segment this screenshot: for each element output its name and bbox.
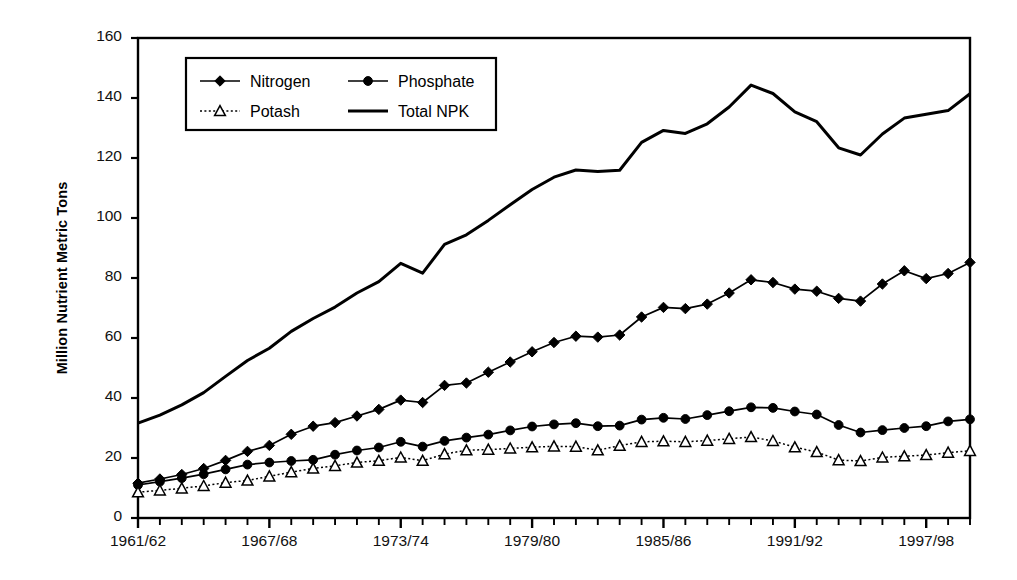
data-point-marker	[484, 430, 493, 439]
y-axis-tick-label: 20	[60, 447, 122, 465]
data-point-marker	[527, 347, 537, 357]
series-total-npk	[138, 85, 970, 423]
data-point-marker	[724, 288, 734, 298]
data-point-marker	[177, 474, 186, 483]
data-point-marker	[396, 437, 405, 446]
chart-page: Million Nutrient Metric Tons NitrogenPho…	[0, 0, 1017, 580]
data-point-marker	[220, 477, 231, 487]
data-point-marker	[790, 407, 799, 416]
data-point-marker	[681, 415, 690, 424]
x-axis-tick-label: 1997/98	[866, 532, 986, 550]
x-axis-tick-label: 1985/86	[603, 532, 723, 550]
legend-label: Potash	[250, 103, 300, 120]
y-axis-tick-label: 40	[60, 387, 122, 405]
data-point-marker	[943, 268, 953, 278]
data-point-marker	[790, 284, 800, 294]
data-point-marker	[287, 457, 296, 466]
legend-label: Total NPK	[398, 103, 469, 120]
data-point-marker	[221, 465, 230, 474]
data-point-marker	[921, 273, 931, 283]
data-point-marker	[725, 407, 734, 416]
data-point-marker	[506, 426, 515, 435]
data-point-marker	[395, 452, 406, 462]
data-point-marker	[768, 436, 779, 446]
data-point-marker	[900, 424, 909, 433]
x-axis-tick-label: 1979/80	[472, 532, 592, 550]
y-axis-tick-label: 120	[60, 147, 122, 165]
data-point-marker	[571, 331, 581, 341]
y-axis-tick-label: 80	[60, 267, 122, 285]
data-point-marker	[593, 422, 602, 431]
data-point-marker	[659, 413, 668, 422]
data-point-marker	[242, 446, 252, 456]
data-point-marker	[966, 415, 975, 424]
y-axis-tick-label: 160	[60, 27, 122, 45]
data-point-marker	[286, 429, 296, 439]
series-line	[138, 85, 970, 423]
data-point-marker	[636, 436, 647, 446]
data-point-marker	[133, 487, 144, 497]
series-nitrogen	[133, 257, 975, 488]
data-point-marker	[637, 415, 646, 424]
data-point-marker	[264, 471, 275, 481]
data-point-marker	[833, 293, 843, 303]
chart-legend: NitrogenPhosphatePotashTotal NPK	[186, 58, 496, 130]
x-axis-tick-label: 1967/68	[209, 532, 329, 550]
data-point-marker	[789, 442, 800, 452]
data-point-marker	[364, 77, 373, 86]
y-axis-tick-label: 140	[60, 87, 122, 105]
y-axis-tick-label: 60	[60, 327, 122, 345]
x-axis-tick-label: 1961/62	[78, 532, 198, 550]
data-point-marker	[199, 470, 208, 479]
data-point-marker	[265, 458, 274, 467]
data-point-marker	[308, 421, 318, 431]
data-point-marker	[703, 411, 712, 420]
data-point-marker	[965, 257, 975, 267]
data-point-marker	[220, 455, 230, 465]
data-point-marker	[374, 404, 384, 414]
data-point-marker	[330, 417, 340, 427]
data-point-marker	[374, 443, 383, 452]
data-point-marker	[462, 433, 471, 442]
data-point-marker	[769, 404, 778, 413]
data-point-marker	[922, 422, 931, 431]
y-axis-tick-label: 0	[60, 507, 122, 525]
data-point-marker	[483, 367, 493, 377]
data-point-marker	[571, 419, 580, 428]
legend-label: Nitrogen	[250, 73, 310, 90]
data-point-marker	[812, 410, 821, 419]
data-point-marker	[658, 302, 668, 312]
x-axis-tick-label: 1991/92	[735, 532, 855, 550]
data-point-marker	[264, 440, 274, 450]
line-chart: NitrogenPhosphatePotashTotal NPK	[0, 0, 1017, 580]
data-point-marker	[550, 420, 559, 429]
data-point-marker	[834, 421, 843, 430]
data-point-marker	[593, 332, 603, 342]
data-point-marker	[702, 299, 712, 309]
data-point-marker	[615, 421, 624, 430]
data-point-marker	[331, 450, 340, 459]
data-point-marker	[528, 422, 537, 431]
data-point-marker	[396, 395, 406, 405]
data-point-marker	[198, 481, 209, 491]
data-point-marker	[899, 266, 909, 276]
y-axis-tick-label: 100	[60, 207, 122, 225]
data-point-marker	[856, 428, 865, 437]
data-point-marker	[747, 403, 756, 412]
data-point-marker	[746, 432, 757, 442]
data-point-marker	[549, 337, 559, 347]
data-point-marker	[353, 446, 362, 455]
data-point-marker	[878, 426, 887, 435]
data-point-marker	[680, 303, 690, 313]
data-point-marker	[440, 437, 449, 446]
data-point-marker	[658, 436, 669, 446]
data-point-marker	[242, 475, 253, 485]
data-point-marker	[944, 417, 953, 426]
legend-label: Phosphate	[398, 73, 475, 90]
data-point-marker	[352, 411, 362, 421]
data-point-marker	[680, 436, 691, 446]
data-point-marker	[418, 442, 427, 451]
data-point-marker	[243, 460, 252, 469]
data-point-marker	[746, 275, 756, 285]
data-point-marker	[505, 357, 515, 367]
